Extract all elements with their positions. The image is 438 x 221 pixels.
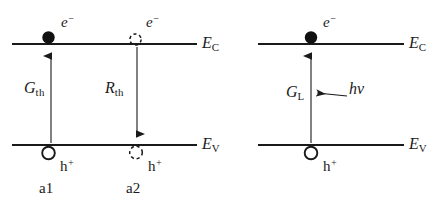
electron-filled-marker-right: [305, 31, 317, 43]
hole-dashed-marker: [130, 146, 143, 159]
band-diagram-figure: e− e− EC EV Gth Rth h+ h+ a1 a2 e− EC EV…: [0, 0, 438, 221]
photon-energy-label: hν: [349, 81, 364, 97]
caption-a2: a2: [126, 181, 140, 196]
hole-label-a1: h+: [60, 158, 74, 174]
electron-label-right: e−: [323, 14, 336, 30]
right-valence-band-label: EV: [409, 136, 427, 154]
photon-arrow: [317, 93, 347, 96]
thermal-generation-label: Gth: [24, 80, 45, 98]
hole-open-marker: [42, 147, 55, 160]
right-conduction-band-label: EC: [409, 35, 426, 53]
hole-label-a2: h+: [148, 158, 162, 174]
electron-label-a1: e−: [61, 14, 74, 30]
left-conduction-band-label: EC: [202, 35, 219, 53]
electron-label-a2: e−: [146, 14, 159, 30]
electron-filled-marker: [42, 31, 54, 43]
optical-generation-label: GL: [286, 84, 305, 102]
thermal-recombination-label: Rth: [105, 80, 124, 98]
caption-a1: a1: [39, 181, 53, 196]
diagram-canvas: [0, 0, 438, 221]
left-valence-band-label: EV: [202, 136, 220, 154]
hole-open-marker-right: [305, 147, 318, 160]
hole-label-right: h+: [323, 158, 337, 174]
